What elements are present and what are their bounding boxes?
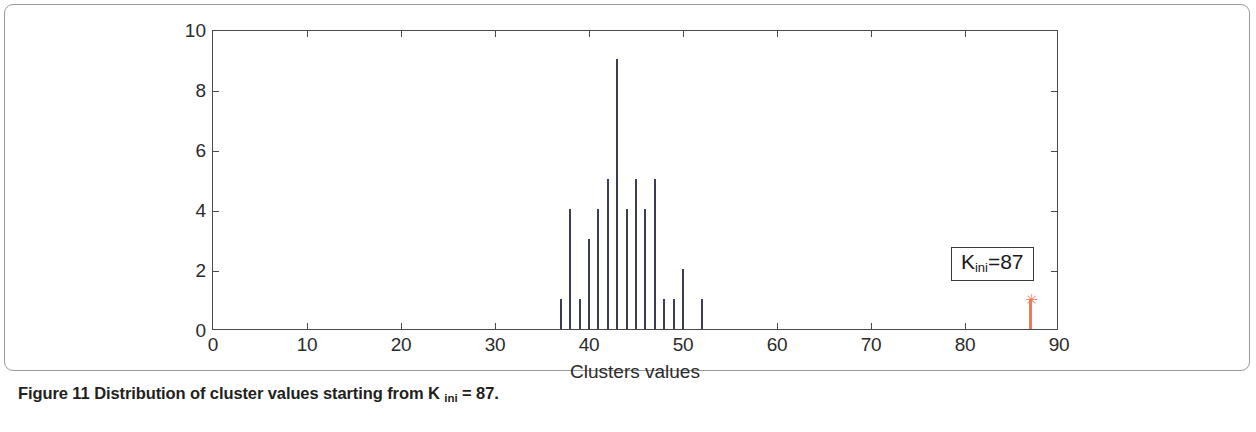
y-tick-right [1051,271,1057,272]
stem-bar [607,179,609,329]
y-tick-label: 6 [195,140,206,162]
caption-subscript: ini [444,392,457,404]
x-tick-label: 0 [208,334,218,356]
x-tick-label: 50 [673,334,694,356]
y-tick-right [1051,151,1057,152]
x-tick-top [777,31,778,37]
x-tick-label: 10 [297,334,318,356]
figure-caption: Figure 11 Distribution of cluster values… [18,384,499,404]
x-tick-bottom [871,323,872,329]
plot-axes: 0102030405060708090 0246810 ✳ Kini=87 Cl… [212,30,1058,330]
x-axis-label: Clusters values [213,361,1057,383]
x-tick-label: 90 [1049,334,1070,356]
x-tick-label: 70 [861,334,882,356]
y-tick-left [213,211,219,212]
y-tick-left [213,271,219,272]
annotation-symbol: K [961,250,975,273]
x-tick-label: 60 [767,334,788,356]
caption-text: Distribution of cluster values starting … [94,384,440,402]
caption-prefix: Figure 11 [18,384,90,402]
x-tick-bottom [777,323,778,329]
stem-bar [663,299,665,329]
x-tick-bottom [965,323,966,329]
x-tick-top [307,31,308,37]
stem-bar [579,299,581,329]
x-tick-bottom [307,323,308,329]
y-tick-label: 0 [195,320,206,342]
y-tick-label: 8 [195,80,206,102]
x-tick-label: 80 [955,334,976,356]
stem-bar [644,209,646,329]
x-tick-top [965,31,966,37]
stem-bar [701,299,703,329]
y-tick-label: 10 [185,20,206,42]
stem-bar [560,299,562,329]
stem-bar [588,239,590,329]
stem-bar [626,209,628,329]
y-tick-right [1051,91,1057,92]
plot-container: 0102030405060708090 0246810 ✳ Kini=87 Cl… [0,0,1256,372]
stem-marker-icon: ✳ [1025,295,1036,306]
x-tick-bottom [401,323,402,329]
x-tick-top [871,31,872,37]
stem-bar [682,269,684,329]
x-tick-label: 30 [485,334,506,356]
stem-bar [569,209,571,329]
stem-bar [635,179,637,329]
x-tick-top [589,31,590,37]
x-tick-label: 20 [391,334,412,356]
figure-page: 0102030405060708090 0246810 ✳ Kini=87 Cl… [0,0,1256,432]
stem-bar [597,209,599,329]
y-tick-left [213,151,219,152]
x-tick-top [683,31,684,37]
x-tick-bottom [495,323,496,329]
caption-suffix: = 87. [462,384,499,402]
stem-bar [673,299,675,329]
x-tick-top [495,31,496,37]
y-tick-left [213,91,219,92]
stem-bar [616,59,618,329]
annotation-subscript: ini [975,260,988,275]
y-tick-right [1051,211,1057,212]
annotation-value: =87 [988,250,1024,273]
annotation-box: Kini=87 [951,247,1034,281]
stem-bar [654,179,656,329]
x-tick-label: 40 [579,334,600,356]
x-tick-top [401,31,402,37]
y-tick-label: 4 [195,200,206,222]
y-tick-label: 2 [195,260,206,282]
